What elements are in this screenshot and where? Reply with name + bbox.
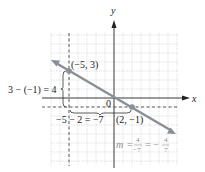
rise-label: 3 − (−1) = 4 — [8, 84, 57, 96]
y-axis-label: y — [110, 5, 116, 16]
point-a-label: (−5, 3) — [71, 59, 98, 71]
slope-formula: m = 4 −7 = − 4 7 — [116, 136, 169, 154]
svg-text:= −: = − — [145, 139, 159, 150]
svg-text:7: 7 — [164, 146, 168, 154]
point-b-label: (2, −1) — [116, 114, 143, 126]
svg-text:−7: −7 — [133, 146, 141, 154]
run-label: −5 − 2 = −7 — [56, 114, 104, 125]
svg-text:4: 4 — [136, 136, 140, 144]
origin-label: 0 — [106, 98, 111, 109]
y-axis-arrow-icon — [112, 20, 117, 28]
svg-text:4: 4 — [164, 136, 168, 144]
coordinate-plane: y x 0 (−5, 3) (2, −1) 3 − (−1) = 4 −5 − … — [0, 0, 205, 172]
x-axis-arrow-icon — [182, 96, 190, 101]
point-b — [129, 104, 135, 110]
svg-text:m: m — [116, 139, 123, 150]
x-axis-label: x — [191, 93, 197, 104]
